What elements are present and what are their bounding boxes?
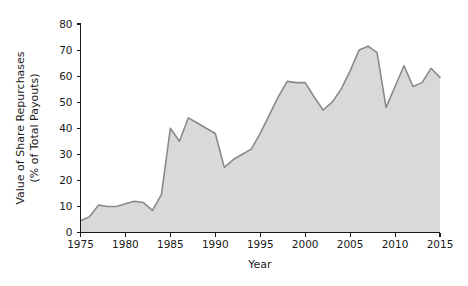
y-axis-title: Value of Share Repurchases (% of Total P… (14, 51, 41, 204)
x-tick-group: 197519801985199019952000200520102015 (67, 233, 453, 250)
figure-container: 01020304050607080 1975198019851990199520… (0, 0, 468, 286)
y-tick-label: 80 (59, 18, 72, 30)
y-tick-label: 50 (59, 96, 72, 108)
y-axis-title-line1: Value of Share Repurchases (14, 51, 27, 204)
x-tick-label: 1995 (247, 238, 274, 250)
share-repurchases-chart: 01020304050607080 1975198019851990199520… (0, 0, 468, 286)
y-tick-label: 10 (59, 200, 72, 212)
y-tick-label: 40 (59, 122, 72, 134)
x-tick-label: 2015 (427, 238, 454, 250)
x-tick-label: 2000 (292, 238, 319, 250)
x-axis-title: Year (247, 258, 272, 271)
x-axis: 197519801985199019952000200520102015 (67, 233, 453, 250)
x-tick-label: 1980 (112, 238, 139, 250)
y-tick-label: 20 (59, 174, 72, 186)
x-tick-label: 2005 (337, 238, 364, 250)
x-tick-label: 2010 (382, 238, 409, 250)
y-tick-label: 60 (59, 70, 72, 82)
y-tick-label: 70 (59, 44, 72, 56)
x-tick-label: 1975 (67, 238, 94, 250)
y-axis-title-line2: (% of Total Payouts) (28, 74, 41, 183)
x-tick-label: 1985 (157, 238, 184, 250)
x-tick-label: 1990 (202, 238, 229, 250)
y-tick-label: 0 (66, 226, 73, 238)
y-tick-label: 30 (59, 148, 72, 160)
